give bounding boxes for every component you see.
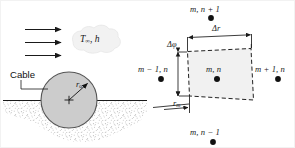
free-stream-condition-label: T∞, h [80, 34, 100, 45]
grid-node-dots [158, 15, 281, 145]
cable-radius-subscript: o [79, 83, 82, 89]
figure-canvas [1, 1, 295, 148]
node-dot-center [214, 76, 220, 82]
delta-phi-dimension [178, 52, 189, 96]
node-label-right: m + 1, n [255, 65, 285, 74]
node-dot-left [158, 76, 164, 82]
free-stream-flow-arrows [25, 30, 61, 56]
convection-coefficient-symbol: h [95, 33, 100, 44]
dashed-control-volume [188, 49, 254, 101]
r-m-dimension [153, 96, 190, 113]
delta-r-label: Δr [212, 25, 220, 33]
node-label-bottom: m, n − 1 [190, 128, 220, 137]
r-m-subscript: m [176, 102, 180, 108]
r-m-label: rm [173, 100, 180, 109]
node-dot-right [275, 76, 281, 82]
node-label-center: m, n [206, 65, 221, 74]
cable-label: Cable [10, 70, 35, 80]
node-dot-top [208, 15, 214, 21]
node-dot-bottom [210, 139, 216, 145]
cable-radius-label: ro [76, 80, 82, 90]
figure-container: Cable T∞, h ro m, n + 1 m − 1, n m, n m … [0, 0, 295, 148]
node-label-left: m − 1, n [138, 65, 168, 74]
delta-phi-label: Δφ [167, 41, 177, 49]
node-label-top: m, n + 1 [190, 5, 220, 14]
